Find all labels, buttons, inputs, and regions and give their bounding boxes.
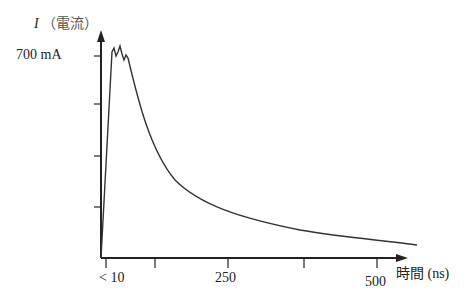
x-tick-label-10: < 10	[99, 270, 124, 286]
current-curve	[101, 46, 417, 258]
x-tick-label-250: 250	[215, 270, 236, 286]
y-axis-label: I （電流）	[34, 12, 98, 32]
y-axis-symbol: I	[34, 16, 39, 31]
x-axis-label: 時間 (ns)	[396, 262, 449, 282]
y-axis-arrow-icon	[97, 30, 105, 42]
x-tick-label-500: 500	[365, 274, 386, 290]
x-axis-arrow-icon	[396, 254, 408, 262]
y-tick-label-700: 700 mA	[16, 47, 62, 63]
current-time-chart	[0, 0, 465, 306]
y-axis-text: （電流）	[42, 16, 98, 31]
